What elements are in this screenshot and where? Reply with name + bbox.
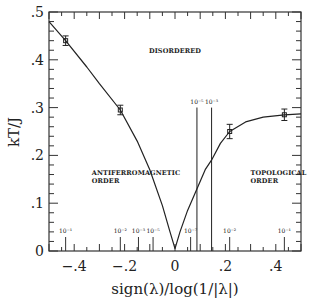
y-tick-label: .5	[31, 4, 44, 20]
vertical-line-label: 10⁻³	[205, 98, 219, 105]
x-axis-title: sign(λ)/log(1/|λ|)	[111, 280, 238, 298]
x-tick-label: −.2	[112, 258, 137, 274]
lambda-tick-label: 10⁻²	[114, 227, 128, 234]
lambda-tick-label: 10⁻²	[223, 227, 237, 234]
x-tick-label: 0	[171, 258, 180, 274]
plot-area: −.4−.20.2.40.1.2.3.4.510⁻¹10⁻²10⁻³10⁻⁵10…	[31, 4, 307, 274]
x-tick-label: .4	[269, 258, 282, 274]
lambda-tick-label: 10⁻⁵	[146, 227, 160, 234]
y-tick-label: .3	[31, 100, 44, 116]
phase-boundary-curve	[49, 22, 301, 249]
y-axis-title: kT/J	[5, 117, 23, 147]
y-tick-label: .1	[31, 195, 44, 211]
y-tick-label: .2	[31, 147, 44, 163]
phase-diagram-chart: −.4−.20.2.40.1.2.3.4.510⁻¹10⁻²10⁻³10⁻⁵10…	[0, 0, 309, 299]
region-label: ORDER	[251, 177, 279, 185]
x-tick-label: .2	[219, 258, 232, 274]
lambda-tick-label: 10⁻⁷	[184, 227, 198, 234]
vertical-line-label: 10⁻⁵	[190, 98, 204, 105]
y-tick-label: .4	[31, 52, 44, 68]
x-tick-label: −.4	[62, 258, 87, 274]
region-label: ORDER	[92, 177, 120, 185]
y-tick-label: 0	[35, 243, 44, 259]
lambda-tick-label: 10⁻¹	[278, 227, 291, 234]
lambda-tick-label: 10⁻¹	[59, 227, 72, 234]
region-label: DISORDERED	[149, 47, 201, 55]
lambda-tick-label: 10⁻³	[132, 227, 146, 234]
